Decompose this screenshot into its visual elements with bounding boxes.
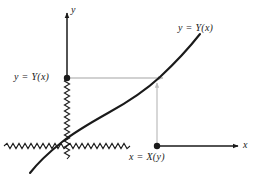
x-value-label: x = X(y) — [129, 152, 165, 162]
y-value-label: y = Y(x) — [14, 72, 49, 82]
x-axis-mid-zigzag — [67, 143, 130, 148]
x-axis-label: x — [243, 140, 248, 150]
y-axis-point-dot — [64, 75, 70, 81]
math-figure: y = Y(x) y = Y(x) x = X(y) y x — [0, 0, 257, 179]
x-axis-point-dot — [154, 143, 160, 149]
y-axis-label: y — [71, 5, 76, 15]
function-curve — [30, 34, 200, 173]
y-axis-zigzag — [64, 78, 69, 159]
curve-label: y = Y(x) — [178, 23, 213, 33]
